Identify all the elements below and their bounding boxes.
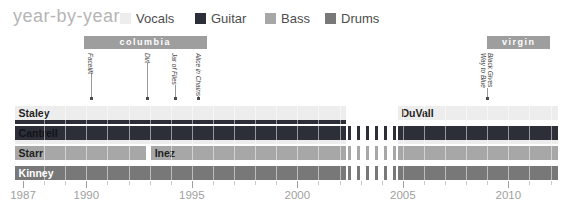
- year-gridline: [361, 104, 362, 181]
- axis-year-label: 1990: [74, 189, 100, 201]
- legend-swatch-icon: [265, 13, 276, 24]
- axis-tick: [382, 181, 383, 185]
- hiatus-dash: [393, 146, 396, 160]
- album-label: Jar of Flies: [171, 53, 178, 85]
- member-bar-starr: Starr: [15, 146, 147, 160]
- axis-tick: [65, 181, 66, 185]
- hiatus-dash: [393, 126, 396, 140]
- year-gridline: [529, 104, 530, 181]
- year-gridline: [445, 104, 446, 181]
- axis-tick: [318, 181, 319, 185]
- axis-tick: [361, 181, 362, 185]
- legend-label: Drums: [341, 11, 379, 26]
- year-gridline: [508, 104, 509, 181]
- year-gridline: [234, 104, 235, 181]
- band-timeline-chart: year-by-year VocalsGuitarBassDrums colum…: [0, 0, 565, 209]
- secondary-role-bar-vocals: [398, 140, 558, 144]
- axis-tick: [445, 181, 446, 185]
- member-name-label: Cantrell: [19, 126, 58, 140]
- legend-label: Bass: [281, 11, 310, 26]
- hiatus-dash: [357, 126, 360, 140]
- axis-tick: [192, 181, 193, 188]
- album-marker-dot: [146, 97, 149, 100]
- member-bar-segment: [398, 166, 558, 180]
- hiatus-dash: [357, 146, 360, 160]
- member-bar-duvall: DuVall: [398, 106, 558, 120]
- album-label: Black Gives Way to Blue: [480, 53, 494, 88]
- hiatus-dash: [393, 166, 396, 180]
- axis-year-label: 2005: [390, 189, 416, 201]
- year-gridline: [403, 104, 404, 181]
- axis-tick: [150, 181, 151, 185]
- year-gridline: [150, 104, 151, 181]
- member-name-label: Starr: [19, 146, 44, 160]
- axis-tick: [171, 181, 172, 185]
- member-name-label: DuVall: [402, 106, 434, 120]
- axis-tick: [276, 181, 277, 185]
- legend-swatch-icon: [325, 13, 336, 24]
- year-gridline: [487, 104, 488, 181]
- hiatus-dash: [375, 146, 378, 160]
- year-gridline: [65, 104, 66, 181]
- year-gridline: [192, 104, 193, 181]
- chart-title: year-by-year: [13, 6, 120, 27]
- record-label-bar-virgin: virgin: [487, 36, 550, 49]
- axis-tick: [551, 181, 552, 185]
- member-bar-inez: Inez: [151, 146, 346, 160]
- axis-year-label: 2000: [285, 189, 311, 201]
- year-gridline: [276, 104, 277, 181]
- hiatus-dash: [348, 126, 351, 140]
- hiatus-dash: [384, 146, 387, 160]
- axis-tick: [466, 181, 467, 185]
- album-marker-dot: [197, 97, 200, 100]
- axis-tick: [234, 181, 235, 185]
- axis-tick: [340, 181, 341, 185]
- year-gridline: [318, 104, 319, 181]
- hiatus-dash: [384, 166, 387, 180]
- axis-tick: [213, 181, 214, 185]
- member-bar-segment: [398, 126, 558, 140]
- axis-tick: [508, 181, 509, 188]
- year-gridline: [171, 104, 172, 181]
- album-label: Alice in Chains: [195, 53, 202, 96]
- album-marker-dot: [90, 97, 93, 100]
- hiatus-dash: [375, 166, 378, 180]
- axis-tick: [424, 181, 425, 185]
- legend-label: Guitar: [211, 11, 246, 26]
- hiatus-dash: [366, 166, 369, 180]
- hiatus-dash: [375, 126, 378, 140]
- year-gridline: [424, 104, 425, 181]
- year-gridline: [86, 104, 87, 181]
- axis-year-label: 2010: [496, 189, 522, 201]
- axis-tick: [44, 181, 45, 185]
- legend-swatch-icon: [195, 13, 206, 24]
- axis-tick: [529, 181, 530, 185]
- year-gridline: [340, 104, 341, 181]
- hiatus-dash: [348, 166, 351, 180]
- record-label-bar-columbia: columbia: [84, 36, 206, 49]
- album-label: Facelift: [87, 53, 94, 74]
- hiatus-dash: [366, 126, 369, 140]
- year-gridline: [551, 104, 552, 181]
- album-marker-dot: [174, 97, 177, 100]
- member-name-label: Inez: [155, 146, 175, 160]
- hiatus-dash: [348, 146, 351, 160]
- year-gridline: [107, 104, 108, 181]
- member-bar-segment: [398, 146, 558, 160]
- hiatus-dash: [384, 126, 387, 140]
- album-label: Dirt: [144, 53, 151, 63]
- axis-tick: [487, 181, 488, 185]
- year-gridline: [213, 104, 214, 181]
- axis-tick: [107, 181, 108, 185]
- legend-swatch-icon: [120, 13, 131, 24]
- axis-tick: [297, 181, 298, 188]
- year-gridline: [382, 104, 383, 181]
- hiatus-dash: [357, 166, 360, 180]
- year-gridline: [44, 104, 45, 181]
- axis-tick: [86, 181, 87, 188]
- axis-year-label: 1995: [179, 189, 205, 201]
- axis-tick: [255, 181, 256, 185]
- axis-tick: [403, 181, 404, 188]
- axis-tick: [23, 181, 24, 188]
- legend-label: Vocals: [136, 11, 174, 26]
